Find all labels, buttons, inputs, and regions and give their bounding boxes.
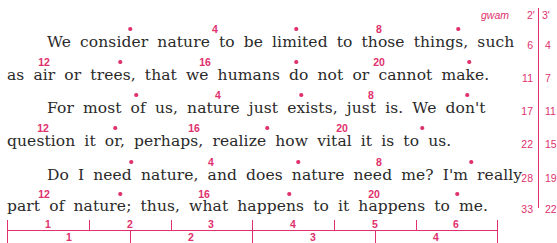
ruler-bottom-label-4: 4 [433, 232, 439, 243]
ruler-tick [416, 220, 417, 231]
marker-dot [465, 93, 469, 97]
gwam-2min-2: 11 [509, 73, 533, 84]
marker-dot [455, 192, 459, 196]
text-line-3: For most of us, nature just exists, just… [47, 99, 486, 117]
ruler-bottom-label-2: 2 [188, 232, 194, 243]
marker-dot [467, 60, 471, 64]
gwam-2min-1: 6 [509, 40, 533, 51]
ruler-top-label-2: 2 [127, 219, 133, 230]
gwam-3min-2: 7 [545, 73, 551, 84]
ruler-bottom-label-3: 3 [310, 232, 316, 243]
ruler-top-label-4: 4 [290, 219, 296, 230]
text-line-6: part of nature; thus, what happens to it… [7, 197, 488, 215]
gwam-2min-6: 33 [509, 204, 533, 215]
text-line-4: question it or, perhaps, realize how vit… [7, 132, 451, 150]
gwam-3min-5: 19 [545, 173, 557, 184]
marker-dot [113, 126, 117, 130]
text-line-5: Do I need nature, and does nature need m… [47, 166, 522, 184]
ruler-bottom-label-1: 1 [66, 232, 72, 243]
marker-dot [265, 126, 269, 130]
marker-dot [134, 93, 138, 97]
marker-dot [118, 192, 122, 196]
ruler-tick [171, 220, 172, 231]
marker-dot [299, 93, 303, 97]
ruler-top-label-5: 5 [372, 219, 378, 230]
gwam-2min-header: 2' [527, 10, 535, 21]
gwam-3min-6: 22 [545, 204, 557, 215]
text-line-2: as air or trees, that we humans do not o… [7, 66, 489, 84]
gwam-2min-5: 28 [509, 173, 533, 184]
gwam-3min-3: 11 [545, 106, 556, 117]
ruler-tick [375, 230, 376, 243]
gwam-2min-4: 22 [509, 139, 533, 150]
marker-dot [118, 60, 122, 64]
marker-dot [296, 160, 300, 164]
marker-dot [128, 27, 132, 31]
gwam-3min-4: 15 [545, 139, 557, 150]
ruler-tick [130, 230, 131, 243]
ruler-tick [497, 220, 498, 243]
gwam-divider [538, 8, 539, 208]
marker-dot [294, 60, 298, 64]
ruler-tick [252, 220, 253, 243]
ruler-tick [334, 220, 335, 231]
ruler-top-label-1: 1 [45, 219, 51, 230]
ruler-top-label-3: 3 [208, 219, 214, 230]
gwam-3min-1: 4 [545, 40, 551, 51]
marker-dot [456, 27, 460, 31]
ruler-top-label-6: 6 [453, 219, 459, 230]
marker-dot [129, 160, 133, 164]
gwam-label: gwam [481, 10, 509, 21]
gwam-2min-3: 17 [509, 106, 533, 117]
ruler-tick [89, 220, 90, 231]
text-line-1: We consider nature to be limited to thos… [47, 33, 514, 51]
gwam-3min-header: 3' [542, 10, 550, 21]
ruler-tick [7, 230, 8, 243]
marker-dot [287, 192, 291, 196]
marker-dot [469, 160, 473, 164]
marker-dot [420, 126, 424, 130]
marker-dot [294, 27, 298, 31]
